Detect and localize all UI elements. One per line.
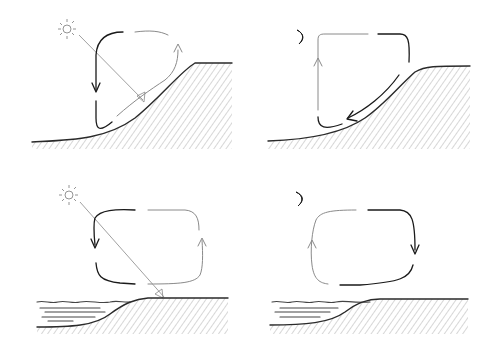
water-surface xyxy=(37,301,130,302)
moon-icon xyxy=(297,30,303,44)
diagram-canvas xyxy=(0,0,499,353)
surface-heating-mark xyxy=(155,289,163,298)
sun-icon xyxy=(59,185,78,205)
circulation-loop xyxy=(91,210,206,284)
circulation-loop xyxy=(308,210,419,285)
panel-day-slope xyxy=(32,19,232,149)
sun-icon xyxy=(58,19,76,39)
panel-night-slope xyxy=(268,30,470,149)
panel-day-coast xyxy=(37,185,228,334)
panel-night-coast xyxy=(270,192,468,334)
hatch-fill xyxy=(37,298,228,334)
moon-icon xyxy=(296,192,302,206)
hatch-fill xyxy=(268,66,470,149)
sun-ray xyxy=(79,35,143,100)
water-surface xyxy=(272,301,370,302)
hatch-fill xyxy=(32,63,232,149)
